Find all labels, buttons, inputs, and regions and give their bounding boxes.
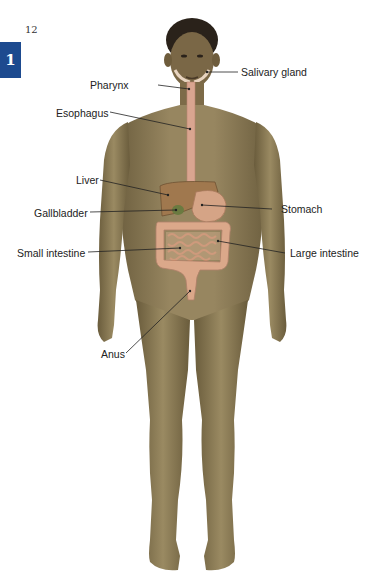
label-stomach: Stomach (281, 203, 322, 215)
label-esophagus: Esophagus (56, 107, 109, 119)
label-liver: Liver (76, 174, 99, 186)
label-pharynx: Pharynx (90, 79, 129, 91)
textbook-page: 12 1 (0, 0, 370, 584)
right-leg (194, 300, 248, 570)
label-anus: Anus (101, 348, 125, 360)
label-salivary-gland: Salivary gland (241, 66, 307, 78)
left-leg (136, 300, 190, 570)
label-large-intestine: Large intestine (290, 247, 359, 259)
label-small-intestine: Small intestine (17, 247, 85, 259)
head (164, 18, 220, 88)
digestive-system-figure (0, 0, 370, 584)
label-gallbladder: Gallbladder (34, 207, 88, 219)
esophagus (187, 82, 195, 192)
